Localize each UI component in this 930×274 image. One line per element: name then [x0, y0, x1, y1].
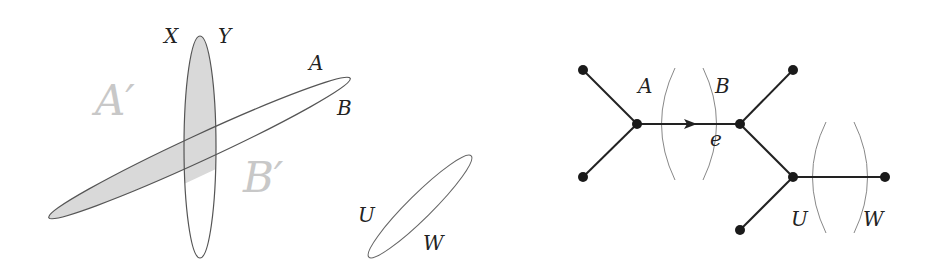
node-leaf-bottom	[735, 225, 745, 235]
node-leaf-top-left	[578, 65, 588, 75]
label-y: Y	[218, 24, 233, 48]
node-internal-lower	[788, 172, 798, 182]
label-w-right: W	[863, 207, 885, 231]
label-w-left: W	[423, 231, 445, 255]
edge	[740, 70, 793, 124]
tree-edges	[583, 70, 885, 230]
label-a-right: A	[636, 74, 652, 98]
left-set-diagram: X Y A B A′ B′ U W	[40, 10, 480, 266]
node-internal-left	[632, 119, 642, 129]
diagram-canvas: X Y A B A′ B′ U W	[0, 0, 930, 274]
label-b-right: B	[714, 74, 730, 98]
edge	[740, 124, 793, 177]
node-internal-middle	[735, 119, 745, 129]
label-e: e	[710, 127, 722, 151]
label-a-prime: A′	[91, 76, 135, 125]
label-u-left: U	[358, 203, 376, 227]
label-b: B	[336, 96, 352, 120]
edge	[740, 177, 793, 230]
label-u-right: U	[791, 207, 809, 231]
uw-set-ellipse	[360, 147, 479, 265]
node-leaf-bottom-left	[578, 172, 588, 182]
edge	[583, 70, 637, 124]
label-x: X	[162, 24, 179, 48]
label-a: A	[307, 51, 323, 75]
tree-nodes	[578, 65, 890, 235]
label-b-prime: B′	[242, 153, 284, 202]
edge	[583, 124, 637, 177]
node-leaf-top-right	[788, 65, 798, 75]
right-tree-diagram: A B e U W	[578, 65, 890, 235]
node-leaf-right	[880, 172, 890, 182]
